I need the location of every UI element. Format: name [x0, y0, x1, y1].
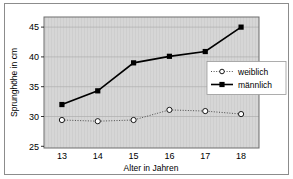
- data-point-männlich-15: [131, 60, 136, 65]
- x-tick-label-16: 16: [164, 151, 174, 161]
- x-tick-label-14: 14: [93, 151, 103, 161]
- y-axis-tick-labels: 45 40 35 30 25: [29, 22, 39, 151]
- data-point-weiblich-18: [238, 111, 243, 116]
- data-point-weiblich-13: [59, 117, 64, 122]
- data-point-weiblich-16: [167, 107, 172, 112]
- y-tick-label-25: 25: [29, 142, 39, 152]
- data-point-männlich-16: [167, 54, 172, 59]
- x-tick-label-13: 13: [57, 151, 67, 161]
- data-point-männlich-13: [59, 102, 64, 107]
- data-point-männlich-18: [238, 25, 243, 30]
- x-tick-label-15: 15: [129, 151, 139, 161]
- x-tick-label-18: 18: [236, 151, 246, 161]
- line-chart: 45 40 35 30 25 13 14 15 16 17 18 Alter i…: [0, 0, 293, 179]
- data-point-männlich-14: [95, 88, 100, 93]
- y-tick-label-40: 40: [29, 52, 39, 62]
- x-axis-tick-labels: 13 14 15 16 17 18: [57, 151, 246, 161]
- legend-marker-open-circle: [220, 69, 225, 74]
- legend-label-weiblich: weiblich: [237, 67, 269, 77]
- data-point-männlich-17: [203, 49, 208, 54]
- x-tick-label-17: 17: [200, 151, 210, 161]
- legend-label-maennlich: männlich: [238, 80, 272, 90]
- y-tick-label-45: 45: [29, 22, 39, 32]
- data-point-weiblich-15: [131, 117, 136, 122]
- data-point-weiblich-17: [203, 108, 208, 113]
- legend: weiblich männlich: [207, 62, 286, 95]
- data-point-weiblich-14: [95, 119, 100, 124]
- y-axis-title: Sprunghöhe in cm: [9, 48, 19, 117]
- x-axis-title: Alter in Jahren: [124, 163, 179, 173]
- y-tick-label-30: 30: [29, 112, 39, 122]
- chart-figure: 45 40 35 30 25 13 14 15 16 17 18 Alter i…: [0, 0, 293, 179]
- y-tick-label-35: 35: [29, 82, 39, 92]
- legend-marker-filled-square: [219, 82, 224, 87]
